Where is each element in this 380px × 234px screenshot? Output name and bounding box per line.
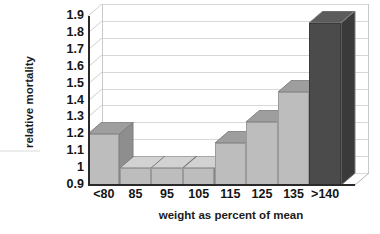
y-axis-line bbox=[88, 16, 90, 186]
y-tick-label: 1.2 bbox=[44, 127, 84, 140]
gridline-depth-connector bbox=[88, 38, 102, 52]
x-tick-label: 105 bbox=[183, 187, 215, 201]
gridline-depth-connector bbox=[88, 105, 102, 119]
y-tick-label: 0.9 bbox=[44, 178, 84, 191]
bar-front-face bbox=[183, 168, 214, 185]
y-tick-label: 1.7 bbox=[44, 43, 84, 56]
bar-front-face bbox=[120, 168, 151, 185]
x-tick-label: 115 bbox=[215, 187, 247, 201]
relative-mortality-bar-chart: relative mortality 1.91.81.71.61.51.41.3… bbox=[0, 0, 380, 234]
y-tick-label: 1.1 bbox=[44, 144, 84, 157]
y-tick-label: 1.5 bbox=[44, 77, 84, 90]
gridline-depth-connector bbox=[88, 4, 102, 18]
x-tick-label: <80 bbox=[88, 187, 120, 201]
bar-front-face bbox=[309, 23, 340, 185]
plot-area: 1.91.81.71.61.51.41.31.21.110.9 <8085951… bbox=[0, 0, 380, 234]
x-axis-title: weight as percent of mean bbox=[86, 209, 376, 221]
bar-front-face bbox=[88, 134, 119, 185]
y-tick-label: 1.8 bbox=[44, 26, 84, 39]
x-tick-label: 135 bbox=[278, 187, 310, 201]
gridline-depth-connector bbox=[88, 89, 102, 103]
x-tick-label: >140 bbox=[309, 187, 341, 201]
x-tick-label: 85 bbox=[120, 187, 152, 201]
x-axis-line bbox=[88, 184, 355, 186]
gridline-depth-connector bbox=[88, 55, 102, 69]
bar->140 bbox=[309, 11, 354, 187]
bar-front-face bbox=[278, 92, 309, 185]
y-tick-label: 1.9 bbox=[44, 9, 84, 22]
bar-front-face bbox=[151, 168, 182, 185]
bar-front-face bbox=[215, 143, 246, 185]
x-tick-label: 125 bbox=[246, 187, 278, 201]
gridline-depth-connector bbox=[88, 21, 102, 35]
y-tick-label: 1.4 bbox=[44, 94, 84, 107]
x-tick-layer: <808595105115125135>140 bbox=[88, 187, 369, 205]
gridline-back bbox=[102, 4, 369, 5]
plot-back-right-edge bbox=[368, 4, 369, 173]
x-tick-label: 95 bbox=[151, 187, 183, 201]
y-tick-label: 1.3 bbox=[44, 110, 84, 123]
gridline-depth-connector bbox=[88, 72, 102, 86]
bar-front-face bbox=[246, 122, 277, 185]
y-tick-label: 1.6 bbox=[44, 60, 84, 73]
bar-side-face bbox=[341, 11, 356, 187]
y-tick-label: 1 bbox=[44, 161, 84, 174]
